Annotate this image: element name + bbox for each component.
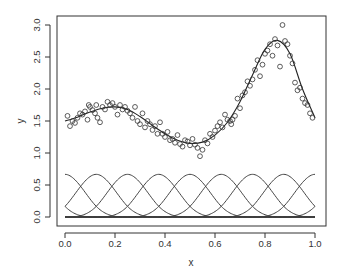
data-point	[85, 117, 90, 122]
y-tick-label: 2.5	[31, 50, 42, 63]
data-point	[118, 103, 123, 108]
data-point	[98, 120, 103, 125]
data-point	[280, 23, 285, 28]
y-axis: 0.00.51.01.52.02.53.0	[31, 18, 50, 223]
y-tick-label: 2.0	[31, 82, 42, 95]
y-tick-label: 3.0	[31, 18, 42, 31]
x-tick-label: 1.0	[308, 238, 321, 249]
basis-function-curve	[65, 174, 315, 217]
basis-function-curve	[65, 174, 315, 217]
data-point	[94, 103, 99, 108]
data-point	[198, 154, 203, 159]
basis-function-curve	[65, 174, 315, 217]
data-point	[155, 131, 160, 136]
data-point	[65, 113, 70, 118]
data-point	[229, 122, 234, 127]
data-point	[248, 83, 253, 88]
data-point	[270, 53, 275, 58]
data-point	[213, 128, 218, 133]
data-point	[140, 111, 145, 116]
data-point	[95, 115, 100, 120]
data-point	[200, 147, 205, 152]
x-axis-title: x	[189, 257, 194, 268]
basis-functions	[65, 174, 315, 217]
data-point	[105, 99, 110, 104]
data-point	[260, 62, 265, 67]
data-point	[138, 122, 143, 127]
data-point	[143, 125, 148, 130]
data-point	[173, 140, 178, 145]
data-point	[220, 125, 225, 130]
data-point	[263, 51, 268, 56]
fit-curve-line	[65, 40, 315, 143]
data-point	[283, 39, 288, 44]
basis-function-curve	[65, 174, 315, 217]
data-point	[133, 105, 138, 110]
y-tick-label: 0.0	[31, 210, 42, 223]
y-axis-title: y	[15, 119, 26, 124]
spline-fit-chart: 0.00.51.01.52.02.53.0 0.00.20.40.60.81.0…	[0, 0, 342, 279]
y-tick-label: 0.5	[31, 178, 42, 191]
data-point	[275, 43, 280, 48]
basis-function-curve	[65, 174, 315, 217]
data-point	[163, 135, 168, 140]
data-point	[265, 48, 270, 53]
data-point	[68, 124, 73, 129]
x-tick-label: 0.2	[108, 238, 121, 249]
x-tick-label: 0.8	[258, 238, 271, 249]
data-point	[208, 131, 213, 136]
data-point	[83, 109, 88, 114]
data-point	[278, 64, 283, 69]
data-point	[308, 111, 313, 116]
basis-function-curve	[65, 174, 315, 217]
data-point	[130, 115, 135, 120]
data-point	[175, 133, 180, 138]
data-point	[158, 120, 163, 125]
y-tick-label: 1.5	[31, 114, 42, 127]
data-point	[223, 112, 228, 117]
data-point	[235, 96, 240, 101]
data-point	[310, 115, 315, 120]
data-point	[165, 129, 170, 134]
x-tick-label: 0.6	[208, 238, 221, 249]
data-point	[115, 112, 120, 117]
data-point	[300, 96, 305, 101]
data-point	[195, 145, 200, 150]
y-tick-label: 1.0	[31, 146, 42, 159]
x-tick-label: 0.4	[158, 238, 171, 249]
data-point	[233, 113, 238, 118]
data-points	[65, 23, 315, 159]
data-point	[205, 141, 210, 146]
x-tick-label: 0.0	[58, 238, 71, 249]
data-point	[293, 80, 298, 85]
data-point	[258, 74, 263, 79]
x-axis: 0.00.20.40.60.81.0	[58, 233, 321, 249]
basis-function-curve	[65, 174, 315, 217]
basis-function-curve	[65, 174, 315, 217]
data-point	[218, 120, 223, 125]
data-point	[93, 111, 98, 116]
data-point	[238, 106, 243, 111]
data-point	[285, 42, 290, 47]
fitted-curve	[65, 40, 315, 143]
data-point	[135, 119, 140, 124]
data-point	[190, 137, 195, 142]
